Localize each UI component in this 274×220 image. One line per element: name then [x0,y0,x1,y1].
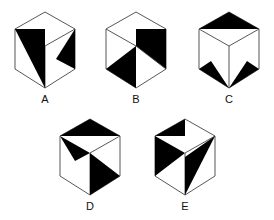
cube-c-icon [196,10,262,92]
option-label-d: D [60,200,120,212]
cube-b-icon [103,10,169,92]
cube-figure-c [196,10,262,92]
option-label-e: E [155,200,215,212]
cube-a-icon [12,10,78,92]
cube-figure-b [103,10,169,92]
cube-e-icon [152,117,218,199]
option-label-a: A [15,93,75,105]
cube-figure-d [57,117,123,199]
cube-figure-a [12,10,78,92]
option-label-b: B [106,93,166,105]
cube-d-icon [57,117,123,199]
cube-figure-e [152,117,218,199]
option-label-c: C [199,93,259,105]
